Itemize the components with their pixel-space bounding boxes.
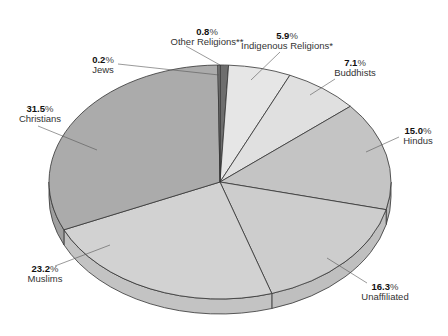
label-jews: 0.2% Jews	[88, 55, 118, 75]
label-muslims-name: Muslims	[28, 273, 63, 284]
label-christians: 31.5% Christians	[14, 104, 66, 124]
label-christians-name: Christians	[19, 113, 61, 124]
label-jews-name: Jews	[92, 64, 114, 75]
leader-line-other	[186, 46, 220, 65]
label-hindus-name: Hindus	[403, 135, 433, 146]
label-muslims: 23.2% Muslims	[22, 264, 68, 284]
label-indigenous-name: Indigenous Religions*	[241, 40, 333, 51]
label-buddhists: 7.1% Buddhists	[330, 58, 380, 78]
label-hindus: 15.0% Hindus	[398, 126, 438, 146]
label-indigenous-religions: 5.9% Indigenous Religions*	[232, 31, 342, 51]
label-buddhists-name: Buddhists	[334, 67, 376, 78]
label-unaffiliated-name: Unaffiliated	[361, 291, 408, 302]
label-unaffiliated: 16.3% Unaffiliated	[355, 282, 415, 302]
pie-slices	[49, 65, 391, 299]
